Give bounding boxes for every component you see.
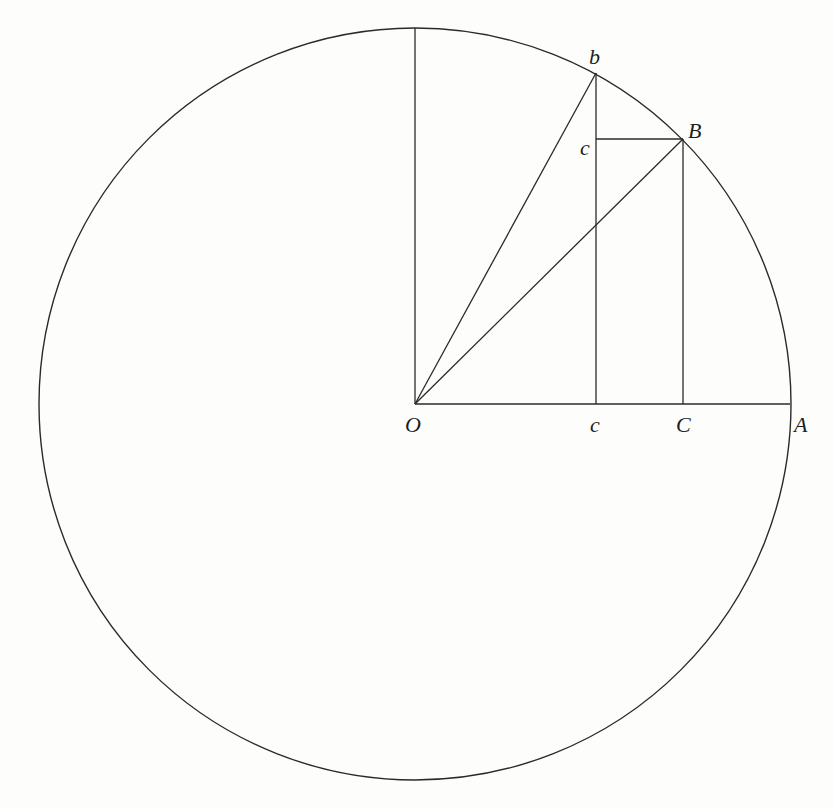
label-C: C	[676, 412, 691, 437]
line-Ob	[415, 73, 596, 404]
label-O: O	[405, 412, 421, 437]
label-b: b	[589, 44, 600, 69]
book-page: O A b B c c C	[0, 0, 834, 808]
label-B: B	[688, 118, 701, 143]
label-c-upper: c	[580, 135, 590, 160]
geometry-figure: O A b B c c C	[0, 0, 834, 808]
label-c-lower: c	[590, 412, 600, 437]
label-A: A	[792, 412, 808, 437]
line-OB	[415, 139, 683, 404]
